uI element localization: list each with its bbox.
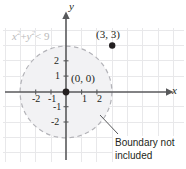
- callout-line-2: included: [115, 150, 184, 163]
- y-axis-arrowhead: [62, 12, 69, 20]
- x-tick-label-2: 2: [97, 93, 102, 104]
- y-tick-label-neg1: -1: [53, 101, 61, 112]
- x-tick-label-neg2: -2: [32, 93, 40, 104]
- inequality-relation: < 9: [35, 30, 49, 42]
- y-tick-label-neg2: -2: [51, 116, 59, 127]
- callout-line-1: Boundary not: [115, 137, 184, 150]
- inequality-label: x2+y2< 9: [12, 29, 49, 42]
- inequality-graph-figure: x2+y2< 9 y x (3, 3) (0, 0) -2 -1 1 2 2 1…: [0, 0, 186, 169]
- point-label-3-3: (3, 3): [96, 28, 120, 40]
- point-origin-marker: [63, 89, 70, 96]
- y-axis-label: y: [69, 0, 74, 12]
- boundary-callout: Boundary not included: [113, 136, 186, 164]
- x-tick-label-1: 1: [82, 93, 87, 104]
- point-3-3-marker: [109, 42, 115, 48]
- x-axis-label: x: [172, 84, 177, 96]
- y-tick-label-2: 2: [54, 55, 59, 66]
- y-tick-label-1: 1: [55, 70, 60, 81]
- point-label-origin: (0, 0): [71, 72, 95, 84]
- callout-leader-line: [100, 115, 118, 134]
